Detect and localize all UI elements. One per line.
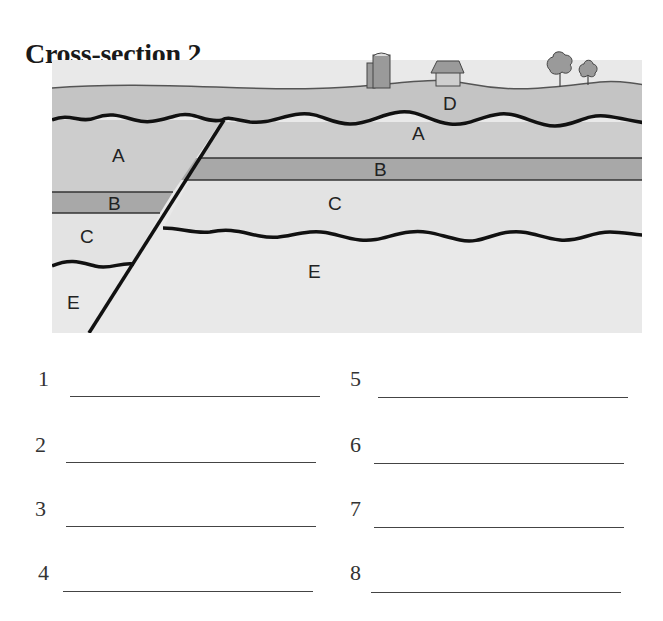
answer-number: 1 (38, 366, 49, 392)
label-C-right: C (328, 193, 342, 214)
house-icon (431, 61, 464, 86)
label-E-left: E (67, 292, 80, 313)
label-D: D (443, 93, 457, 114)
answer-number: 5 (350, 366, 361, 392)
answer-number: 4 (38, 560, 49, 586)
answer-blank-7[interactable] (374, 527, 624, 528)
answer-number: 2 (35, 432, 46, 458)
answer-number: 8 (350, 560, 361, 586)
answer-blank-2[interactable] (66, 462, 316, 463)
label-E-right: E (308, 261, 321, 282)
cross-section-diagram: D A A B B C C E E (0, 0, 663, 340)
answer-blank-1[interactable] (70, 396, 320, 397)
silo-icon (367, 53, 390, 88)
label-B-left: B (108, 193, 121, 214)
answer-number: 3 (35, 496, 46, 522)
layer-A-right (198, 122, 660, 158)
label-A-right: A (412, 123, 425, 144)
label-B-right: B (374, 159, 387, 180)
answer-blank-3[interactable] (66, 526, 316, 527)
label-C-left: C (80, 226, 94, 247)
label-A-left: A (112, 145, 125, 166)
answer-blank-6[interactable] (374, 463, 624, 464)
layer-B-right (180, 158, 660, 180)
answer-number: 6 (350, 432, 361, 458)
layer-D (52, 81, 660, 126)
answer-number: 7 (350, 496, 361, 522)
answer-blank-8[interactable] (371, 592, 621, 593)
answer-blank-4[interactable] (63, 591, 313, 592)
answer-blank-5[interactable] (378, 397, 628, 398)
